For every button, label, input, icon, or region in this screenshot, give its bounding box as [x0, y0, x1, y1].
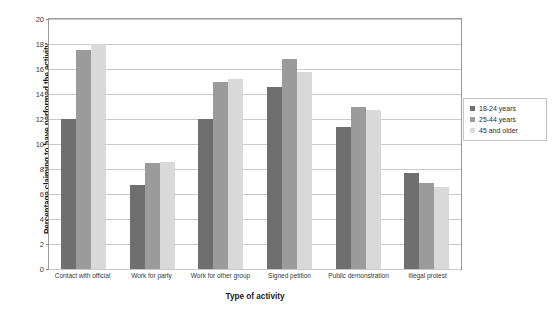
y-axis-tick-label: 4 — [40, 215, 44, 224]
bar — [198, 119, 213, 269]
legend-swatch-icon — [470, 117, 475, 122]
gridline — [49, 269, 461, 270]
y-axis-tick-label: 0 — [40, 265, 44, 274]
bar — [366, 110, 381, 269]
bar — [228, 79, 243, 269]
bar — [419, 183, 434, 269]
y-axis-tick-label: 12 — [36, 115, 44, 124]
y-axis-tick-label: 6 — [40, 190, 44, 199]
x-axis-tick-label: Public demonstration — [324, 272, 393, 279]
x-axis-tick-label: Contact with official — [48, 272, 117, 279]
bar-group — [324, 19, 393, 269]
bar — [351, 107, 366, 270]
legend-item-label: 18-24 years — [479, 105, 516, 112]
legend-item: 25-44 years — [470, 116, 541, 123]
bar — [213, 82, 228, 270]
bar — [91, 44, 106, 269]
y-axis-tick-label: 14 — [36, 90, 44, 99]
plot-area: 02468101214161820 — [48, 18, 462, 270]
bar-chart: Percentage claiming to have performed th… — [0, 0, 552, 319]
legend-item: 45 and older — [470, 127, 541, 134]
bar-group — [255, 19, 324, 269]
legend-swatch-icon — [470, 128, 475, 133]
x-axis-tick-label: Work for party — [117, 272, 186, 279]
bar — [404, 173, 419, 269]
bar — [434, 187, 449, 270]
x-axis-tick-label: Signed petition — [255, 272, 324, 279]
bar-groups — [49, 19, 461, 269]
x-axis-tick-labels: Contact with officialWork for partyWork … — [48, 272, 462, 279]
y-axis-tick-label: 18 — [36, 40, 44, 49]
bar-group — [392, 19, 461, 269]
y-axis-tick-label: 8 — [40, 165, 44, 174]
x-axis-tick-label: Illegal protest — [393, 272, 462, 279]
bar — [61, 119, 76, 269]
bar-group — [118, 19, 187, 269]
legend-item: 18-24 years — [470, 105, 541, 112]
bar — [297, 72, 312, 270]
bar — [76, 50, 91, 269]
y-axis-tick-label: 10 — [36, 140, 44, 149]
bar — [336, 127, 351, 270]
legend-item-label: 25-44 years — [479, 116, 516, 123]
bar — [282, 59, 297, 269]
y-axis-tick-label: 2 — [40, 240, 44, 249]
x-axis-title: Type of activity — [48, 292, 462, 301]
y-axis-tick-mark — [46, 269, 49, 270]
legend-item-label: 45 and older — [479, 127, 518, 134]
x-axis-tick-label: Work for other group — [186, 272, 255, 279]
bar — [267, 87, 282, 270]
bar — [145, 163, 160, 269]
bar-group — [49, 19, 118, 269]
y-axis-tick-label: 20 — [36, 15, 44, 24]
y-axis-tick-label: 16 — [36, 65, 44, 74]
legend: 18-24 years25-44 years45 and older — [463, 98, 547, 141]
bar-group — [186, 19, 255, 269]
bar — [160, 162, 175, 270]
bar — [130, 185, 145, 269]
legend-swatch-icon — [470, 106, 475, 111]
